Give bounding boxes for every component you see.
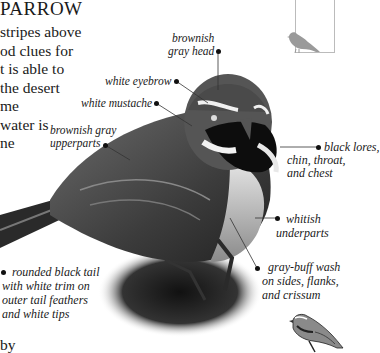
label-eyebrow: white eyebrow <box>105 75 171 88</box>
callout-dot <box>255 266 260 271</box>
label-lores: black lores, chin, throat, and chest <box>287 141 380 180</box>
label-head: brownish gray head <box>168 32 214 58</box>
label-tail: rounded black tail with white trim on ou… <box>2 265 100 321</box>
label-mustache: white mustache <box>81 97 152 110</box>
label-underparts: whitish underparts <box>284 212 329 240</box>
bird-illustration-icon <box>285 310 345 353</box>
callout-dot <box>275 216 280 221</box>
callout-dot <box>174 79 179 84</box>
callout-dot <box>216 49 221 54</box>
label-upperparts: brownish gray upperparts <box>50 124 116 150</box>
label-sides: gray-buff wash on sides, flanks, and cri… <box>262 260 340 302</box>
callout-dot <box>154 101 159 106</box>
